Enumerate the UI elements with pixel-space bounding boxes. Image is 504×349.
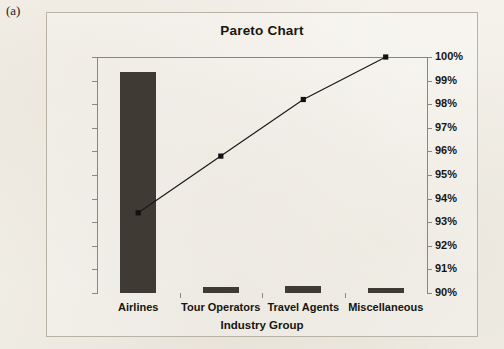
category-label: Airlines: [97, 301, 180, 313]
category-label: Tour Operators: [180, 301, 263, 313]
category-label: Travel Agents: [262, 301, 345, 313]
right-axis-tick: [427, 57, 432, 58]
right-axis-tick-label: 91%: [435, 263, 457, 274]
right-axis-tick: [427, 175, 432, 176]
cumulative-line: [138, 57, 385, 213]
right-axis-tick-label: 100%: [435, 51, 463, 62]
right-axis-tick-label: 94%: [435, 193, 457, 204]
cumulative-line-series: [97, 57, 427, 294]
line-marker: [301, 97, 306, 102]
line-marker: [383, 54, 388, 59]
x-axis-title: Industry Group: [97, 319, 427, 331]
right-axis-tick-label: 92%: [435, 240, 457, 251]
plot-area: 0%10%20%30%40%50%60%70%80%90%100% 90%91%…: [97, 57, 427, 294]
chart-frame: Pareto Chart 0%10%20%30%40%50%60%70%80%9…: [46, 12, 478, 337]
right-axis-tick-label: 93%: [435, 216, 457, 227]
category-label: Miscellaneous: [345, 301, 428, 313]
right-axis-tick: [427, 293, 432, 294]
x-axis-tick: [345, 293, 346, 298]
right-axis-tick: [427, 81, 432, 82]
right-axis-tick-label: 97%: [435, 122, 457, 133]
right-axis-tick-label: 90%: [435, 287, 457, 298]
right-axis-tick: [427, 151, 432, 152]
chart-title: Pareto Chart: [47, 23, 477, 38]
right-axis-tick: [427, 222, 432, 223]
x-axis-tick: [262, 293, 263, 298]
right-axis-tick: [427, 128, 432, 129]
right-axis-tick: [427, 269, 432, 270]
right-axis-tick-label: 99%: [435, 75, 457, 86]
right-axis-tick: [427, 246, 432, 247]
line-marker: [218, 154, 223, 159]
right-axis-tick-label: 95%: [435, 169, 457, 180]
right-axis-tick: [427, 104, 432, 105]
right-axis-labels: 90%91%92%93%94%95%96%97%98%99%100%: [427, 57, 487, 294]
line-marker: [136, 210, 141, 215]
figure-label: (a): [6, 3, 20, 19]
right-axis-tick-label: 96%: [435, 145, 457, 156]
right-axis-tick: [427, 199, 432, 200]
right-axis-tick-label: 98%: [435, 98, 457, 109]
x-axis-tick: [180, 293, 181, 298]
